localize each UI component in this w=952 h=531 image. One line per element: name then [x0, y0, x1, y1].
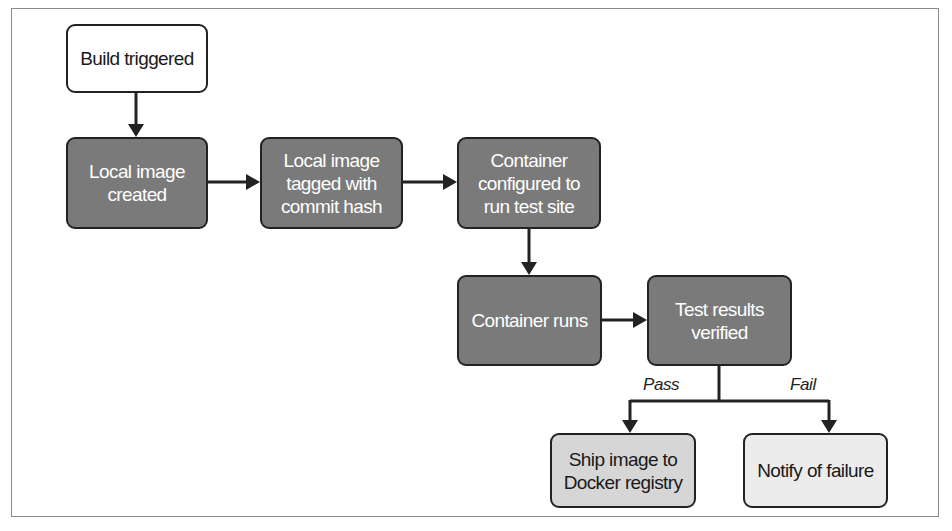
node-label: Test results verified	[670, 298, 770, 344]
arrowhead-icon	[821, 420, 837, 433]
node-build-triggered: Build triggered	[66, 24, 208, 93]
arrowhead-icon	[521, 262, 537, 275]
arrowhead-icon	[633, 312, 647, 328]
node-notify-failure: Notify of failure	[743, 433, 888, 508]
node-local-image-tagged: Local image tagged with commit hash	[260, 137, 403, 229]
node-label: Ship image to Docker registry	[558, 448, 688, 494]
node-local-image-created: Local image created	[66, 137, 208, 229]
edge-label-pass: Pass	[643, 375, 679, 395]
edge-label-fail: Fail	[790, 375, 816, 395]
node-label: Container runs	[471, 309, 587, 332]
node-label: Container configured to run test site	[469, 149, 589, 218]
node-label: Build triggered	[80, 47, 194, 70]
node-label: Local image created	[82, 160, 192, 206]
node-container-configured: Container configured to run test site	[457, 137, 601, 229]
node-test-results-verified: Test results verified	[647, 275, 792, 366]
arrowhead-icon	[128, 124, 144, 137]
arrowhead-icon	[246, 174, 260, 190]
arrowhead-icon	[622, 420, 638, 433]
node-container-runs: Container runs	[457, 275, 602, 366]
node-label: Local image tagged with commit hash	[277, 149, 387, 218]
node-ship-image: Ship image to Docker registry	[550, 433, 696, 508]
node-label: Notify of failure	[757, 459, 874, 482]
arrowhead-icon	[443, 174, 457, 190]
